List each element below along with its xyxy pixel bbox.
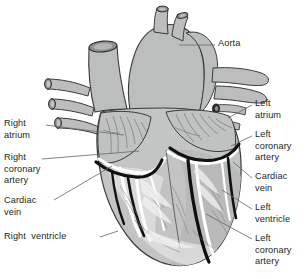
label-aorta: Aorta	[218, 38, 240, 50]
label-cardiac-vein-right: Cardiac vein	[255, 171, 287, 194]
superior-vena-cava-vessel	[89, 40, 127, 112]
label-right-atrium: Right atrium	[4, 118, 30, 141]
label-left-atrium: Left atrium	[255, 98, 281, 121]
heart-anatomy-figure: Aorta Right atrium Right coronary artery…	[0, 0, 307, 279]
leader-right-ventricle	[100, 231, 118, 237]
label-right-ventricle: Right ventricle	[4, 231, 66, 243]
aorta-vessel	[129, 24, 218, 116]
label-left-coronary-artery-upper: Left coronary artery	[255, 129, 292, 164]
label-right-coronary-artery: Right coronary artery	[4, 152, 41, 187]
label-cardiac-vein-left: Cardiac vein	[4, 195, 36, 218]
label-left-coronary-artery-lower: Left coronary artery	[255, 233, 292, 268]
label-left-ventricle: Left ventricle	[255, 202, 290, 225]
